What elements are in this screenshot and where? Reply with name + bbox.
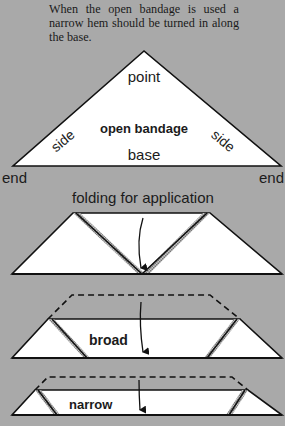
- folding-heading: folding for application: [72, 189, 214, 206]
- label-end-left: end: [2, 169, 27, 186]
- label-narrow: narrow: [69, 397, 113, 412]
- label-end-right: end: [259, 169, 284, 186]
- label-base: base: [128, 146, 161, 163]
- label-point: point: [128, 68, 161, 85]
- fold-step-broad: [12, 295, 282, 358]
- fold-arrow-icon: [139, 380, 140, 410]
- fold-step-narrow: [12, 377, 282, 415]
- fold-step-1: [12, 213, 282, 274]
- bandage-diagram: point open bandage side side base end en…: [0, 0, 285, 426]
- label-broad: broad: [89, 332, 128, 348]
- label-open-bandage: open bandage: [100, 121, 188, 136]
